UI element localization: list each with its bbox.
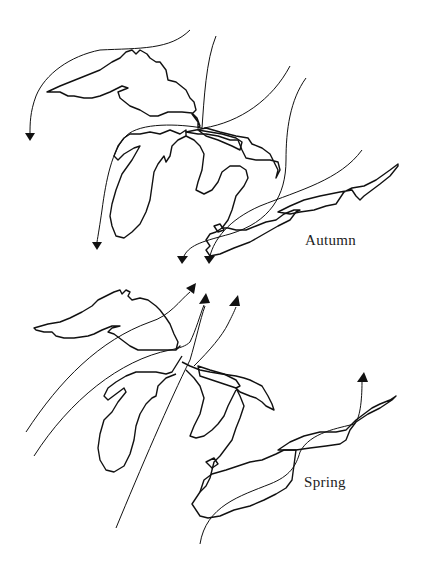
arrowhead-up	[229, 295, 240, 306]
lake-huron	[182, 362, 274, 492]
autumn-map	[25, 30, 398, 264]
spring-map	[26, 283, 396, 544]
autumn-route-2	[97, 36, 216, 242]
arrowhead-up	[186, 283, 196, 294]
lake-michigan	[98, 356, 182, 472]
autumn-route-1	[30, 30, 190, 134]
spring-route-5	[200, 378, 362, 544]
lake-erie	[206, 210, 300, 256]
lake-ontario	[278, 396, 396, 450]
georgian-bay	[198, 366, 240, 388]
lake-ontario	[278, 164, 398, 214]
autumn-route-3	[204, 66, 290, 128]
lake-superior	[34, 290, 180, 350]
autumn-label: Autumn	[305, 232, 356, 249]
migration-maps	[0, 0, 423, 574]
spring-label: Spring	[304, 474, 346, 491]
arrowhead-down	[25, 133, 35, 141]
lake-superior	[47, 50, 200, 128]
arrowhead-up	[199, 293, 210, 304]
arrowhead-up	[357, 372, 368, 382]
lake-huron	[186, 128, 280, 228]
arrowhead-down	[92, 242, 102, 250]
arrowhead-down	[204, 256, 215, 264]
lake-michigan	[110, 130, 186, 238]
spring-route-1	[26, 292, 190, 432]
arrowhead-down	[177, 256, 188, 264]
